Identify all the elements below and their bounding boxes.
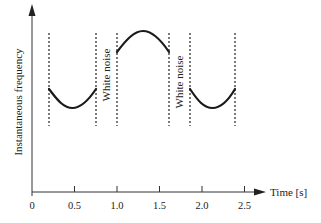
x-tick-1: 0.5 xyxy=(68,200,81,211)
x-tick-2: 1.0 xyxy=(110,200,123,211)
y-axis xyxy=(29,4,36,192)
y-axis-label: Instantaneous frequency xyxy=(12,48,24,156)
frequency-diagram: 0 0.5 1.0 1.5 2.0 2.5 Time [s] Instantan… xyxy=(0,0,321,223)
curve-segment-3 xyxy=(190,89,235,108)
x-axis-label: Time [s] xyxy=(270,186,307,198)
white-noise-label-2: White noise xyxy=(173,55,185,108)
x-tick-4: 2.0 xyxy=(195,200,208,211)
segment-boundaries xyxy=(49,33,235,126)
frequency-curves xyxy=(49,31,235,108)
x-tick-3: 1.5 xyxy=(153,200,166,211)
x-tick-0: 0 xyxy=(29,200,34,211)
white-noise-label-1: White noise xyxy=(100,48,112,101)
x-tick-5: 2.5 xyxy=(238,200,251,211)
curve-segment-1 xyxy=(49,89,96,108)
x-axis-arrow-icon xyxy=(254,189,266,196)
curve-segment-2 xyxy=(117,31,169,52)
x-axis: 0 0.5 1.0 1.5 2.0 2.5 Time [s] xyxy=(29,186,307,211)
y-axis-arrow-icon xyxy=(29,4,36,16)
